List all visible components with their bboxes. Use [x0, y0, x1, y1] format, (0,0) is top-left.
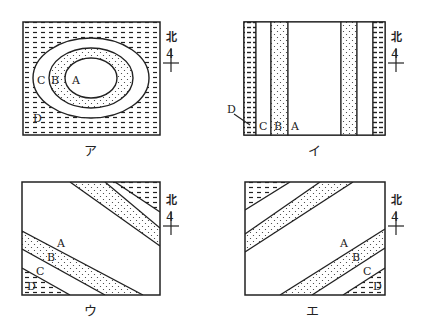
label-b: B: [352, 251, 360, 264]
layer-b-band-left: [271, 22, 288, 135]
diagram-i: D C B A イ 北 4: [227, 22, 404, 158]
label-b: B: [51, 74, 59, 87]
caption-e: エ: [306, 303, 319, 318]
svg-text:4: 4: [166, 210, 174, 224]
label-c: C: [363, 265, 371, 278]
layer-c-band-right: [357, 22, 373, 135]
caption-a: ア: [84, 143, 97, 158]
north-arrow-icon: 北 4: [388, 193, 404, 235]
label-b: B: [274, 120, 282, 133]
label-a: A: [339, 237, 349, 250]
layer-d-band-left: [244, 22, 256, 135]
diagram-a: C B A D ア 北 4: [23, 22, 179, 158]
layer-c-band-left: [256, 22, 271, 135]
label-b: B: [47, 251, 55, 264]
svg-text:北: 北: [166, 193, 177, 207]
diagram-u: A B C D ウ 北 4: [22, 182, 179, 318]
north-arrow-icon: 北 4: [388, 30, 404, 72]
label-d: D: [33, 112, 42, 125]
layer-b-band-right: [341, 22, 357, 135]
label-c: C: [36, 265, 44, 278]
label-c: C: [37, 74, 45, 87]
label-c: C: [259, 120, 267, 133]
north-arrow-icon: 北 4: [163, 193, 179, 235]
label-a: A: [56, 237, 66, 250]
north-arrow-icon: 北 4: [163, 30, 179, 72]
svg-text:4: 4: [166, 47, 174, 61]
svg-text:4: 4: [391, 47, 399, 61]
caption-u: ウ: [84, 303, 97, 318]
strata-diagrams: C B A D ア 北 4 D C B A イ 北 4: [0, 0, 427, 334]
svg-text:北: 北: [391, 30, 402, 44]
svg-text:4: 4: [391, 210, 399, 224]
label-a: A: [290, 120, 300, 133]
svg-text:北: 北: [391, 193, 402, 207]
label-d: D: [373, 280, 382, 293]
diagram-e: A B C D エ 北 4: [245, 182, 404, 318]
label-d: D: [27, 280, 36, 293]
svg-text:北: 北: [166, 30, 177, 44]
label-a: A: [71, 74, 81, 87]
caption-i: イ: [308, 143, 321, 158]
layer-d-band-right: [373, 22, 385, 135]
layer-a-band: [288, 22, 341, 135]
